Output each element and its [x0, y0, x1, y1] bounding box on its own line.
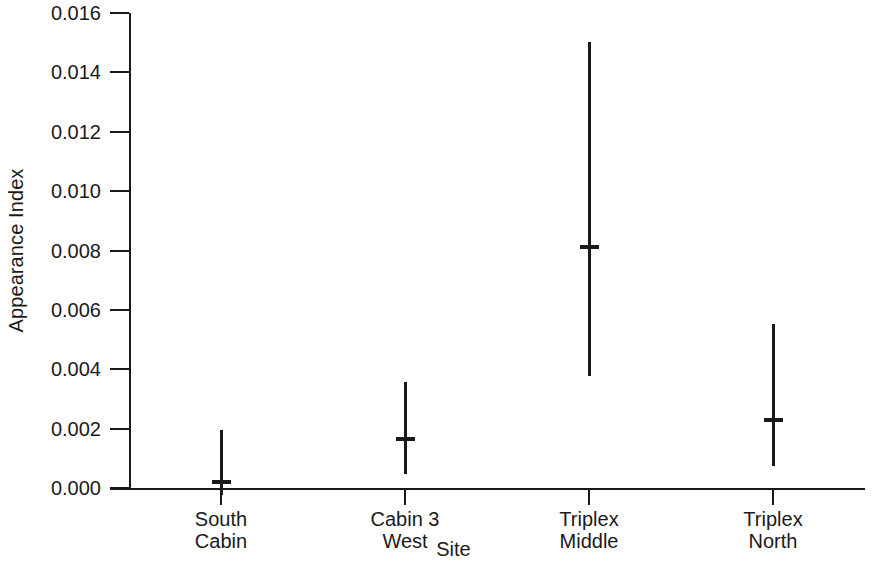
- x-axis-tick-label-line: Cabin 3: [371, 508, 440, 530]
- x-axis-tick: TriplexMiddle: [588, 488, 590, 505]
- y-axis-tick: 0.002: [110, 428, 129, 430]
- x-axis-tick: Cabin 3West: [404, 488, 406, 505]
- data-point-marker: [764, 418, 783, 422]
- error-bar: [404, 382, 407, 474]
- y-axis-tick: 0.000: [110, 487, 129, 489]
- y-axis-tick-label: 0.006: [51, 300, 101, 320]
- y-axis-title-text: Appearance Index: [6, 168, 29, 332]
- y-axis-tick: 0.004: [110, 368, 129, 370]
- y-axis-tick-label: 0.000: [51, 478, 101, 498]
- y-axis-tick: 0.012: [110, 131, 129, 133]
- y-axis-tick-label: 0.016: [51, 3, 101, 23]
- y-axis-tick-label: 0.010: [51, 181, 101, 201]
- data-point-marker: [396, 437, 415, 441]
- y-axis-tick-label: 0.012: [51, 122, 101, 142]
- y-axis-line: [129, 13, 131, 488]
- x-axis-tick-label-line: South: [195, 508, 247, 530]
- appearance-index-chart: Appearance Index 0.0000.0020.0040.0060.0…: [0, 0, 871, 568]
- data-point-marker: [212, 480, 231, 484]
- x-axis-line: [110, 488, 865, 490]
- plot-area: 0.0000.0020.0040.0060.0080.0100.0120.014…: [129, 13, 865, 488]
- x-axis-tick-label-line: Triplex: [559, 508, 618, 530]
- error-bar: [220, 430, 223, 495]
- y-axis-tick-label: 0.008: [51, 241, 101, 261]
- x-axis-title: Site: [0, 538, 871, 561]
- x-axis-tick: TriplexNorth: [772, 488, 774, 505]
- error-bar: [772, 324, 775, 466]
- y-axis-tick-label: 0.014: [51, 62, 101, 82]
- error-bar: [588, 42, 591, 376]
- y-axis-tick: 0.014: [110, 71, 129, 73]
- y-axis-tick: 0.010: [110, 190, 129, 192]
- y-axis-title: Appearance Index: [0, 0, 34, 500]
- x-axis-tick-label-line: Triplex: [743, 508, 802, 530]
- y-axis-tick-label: 0.004: [51, 359, 101, 379]
- y-axis-tick: 0.008: [110, 250, 129, 252]
- x-axis-title-text: Site: [436, 538, 470, 561]
- data-point-marker: [580, 245, 599, 249]
- y-axis-tick: 0.016: [110, 12, 129, 14]
- y-axis-tick-label: 0.002: [51, 419, 101, 439]
- y-axis-tick: 0.006: [110, 309, 129, 311]
